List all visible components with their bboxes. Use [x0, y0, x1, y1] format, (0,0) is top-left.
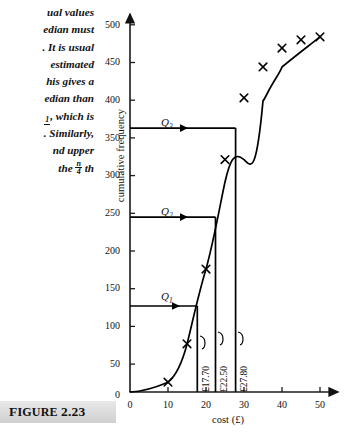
body-text-line: estimated: [0, 56, 96, 73]
data-point-marker: [316, 33, 324, 41]
cumulative-frequency-curve: [130, 37, 320, 392]
q1-curl: [200, 336, 205, 349]
x-tick-label-20: 20: [194, 399, 218, 410]
q3-cost-label: £27.80: [239, 366, 249, 392]
x-axis-title: cost (£): [148, 414, 308, 425]
y-tick-label-450: 450: [90, 56, 120, 67]
cost-label-curls: [200, 332, 243, 349]
data-point-marker: [278, 44, 286, 52]
data-point-marker: [297, 36, 305, 44]
data-point-marker: [259, 63, 267, 71]
q1-annotation-label: Q1: [161, 290, 173, 305]
q2-cost-label: £22.50: [219, 366, 229, 392]
x-tick-label-30: 30: [232, 399, 256, 410]
y-tick-label-400: 400: [90, 94, 120, 105]
x-tick-label-10: 10: [156, 399, 180, 410]
y-axis-title: cumulative frequency: [115, 96, 126, 216]
body-text-line-fraction: 1 , which is: [0, 108, 96, 125]
y-tick-label-500: 500: [90, 19, 120, 30]
q2-annotation-label: Q2: [161, 205, 173, 220]
y-tick-label-0: 0: [90, 389, 120, 400]
y-tick-label-100: 100: [90, 320, 120, 331]
body-text-line: edian must: [0, 21, 96, 38]
body-text-line: nd upper: [0, 142, 96, 159]
y-tick-label-50: 50: [90, 358, 120, 369]
body-text-line: . It is usual: [0, 39, 96, 56]
y-tick-label-350: 350: [90, 132, 120, 143]
body-text-column: ual values edian must . It is usual esti…: [0, 4, 96, 177]
axis-lines: [130, 14, 338, 392]
y-tick-label-200: 200: [90, 245, 120, 256]
y-tick-label-250: 250: [90, 207, 120, 218]
data-point-marker: [240, 94, 248, 102]
x-tick-label-0: 0: [118, 399, 142, 410]
data-point-marker: [164, 378, 172, 386]
body-text-line: edian than: [0, 90, 96, 107]
q3-annotation-label: Q3: [161, 116, 173, 131]
q2-curl: [218, 332, 223, 345]
data-point-markers: [164, 33, 324, 386]
cumulative-frequency-chart: cumulative frequency cost (£) 500 450 40…: [88, 0, 345, 435]
caption-word: IGURE: [17, 405, 57, 419]
body-text-line: . Similarly,: [0, 125, 96, 142]
chart-svg: [88, 0, 345, 435]
y-tick-label-150: 150: [90, 282, 120, 293]
y-tick-label-300: 300: [90, 169, 120, 180]
body-text-line-last: the n4 th: [0, 160, 96, 178]
body-text-line: ual values: [0, 4, 96, 21]
body-text-line: his gives a: [0, 73, 96, 90]
figure-container: ual values edian must . It is usual esti…: [0, 0, 345, 435]
q3-construction-lines: [130, 124, 236, 392]
body-text-line-head: the: [58, 162, 75, 174]
x-tick-label-40: 40: [270, 399, 294, 410]
data-point-marker: [221, 156, 229, 164]
figure-caption-text: FIGURE 2.23: [0, 404, 85, 420]
q1-cost-label: £17.70: [201, 366, 211, 392]
q3-curl: [238, 332, 243, 345]
x-tick-label-50: 50: [308, 399, 332, 410]
caption-number: 2.23: [61, 404, 85, 419]
